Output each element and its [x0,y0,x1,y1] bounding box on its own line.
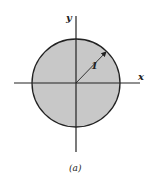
radius-label: 1 [91,60,98,71]
unit-disk-diagram: x y 1 (a) [0,0,153,185]
x-axis-label: x [137,71,145,82]
figure-caption: (a) [69,163,82,173]
y-axis-label: y [65,12,73,23]
